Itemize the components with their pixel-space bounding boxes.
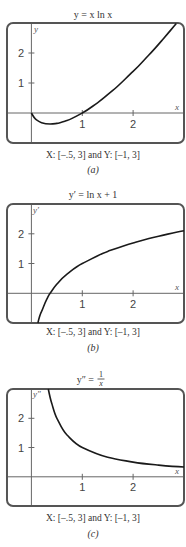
panel-b-title: y′ = ln x + 1	[69, 189, 118, 200]
panel-b-y-axis-label: y′	[32, 205, 40, 215]
panel-a-label: (a)	[87, 164, 99, 176]
panel-a-y-axis-label: y	[33, 24, 38, 34]
panel-a-title: y = x ln x	[74, 9, 112, 20]
panel-a-x-axis-label: x	[174, 102, 179, 112]
panel-b-ytick-label-2: 2	[18, 228, 24, 240]
panel-b: y′ = ln x + 1 1 2 1 2 y′ x X: [–.5, 3] a…	[7, 189, 184, 354]
panel-c: y″ = 1 x 1 2 1 2 y″ x X: [–.5, 3] and Y:…	[7, 370, 184, 540]
panel-b-curve	[38, 231, 184, 323]
panel-c-window-caption: X: [–.5, 3] and Y: [–1, 3]	[46, 513, 140, 523]
panel-a-ytick-label-1: 1	[18, 77, 24, 89]
panel-c-ytick-label-1: 1	[18, 442, 24, 454]
panel-b-x-axis-label: x	[174, 282, 179, 292]
panel-b-ytick-label-1: 1	[18, 258, 24, 270]
panel-c-y-axis-label: y″	[32, 389, 41, 399]
panel-c-title-denominator: x	[98, 379, 103, 388]
panel-a-curve	[31, 24, 176, 125]
panel-c-x-axis-label: x	[174, 466, 179, 476]
panel-a: y = x ln x 1 2 1 2 y x X: [–.5, 3] and Y…	[7, 9, 184, 176]
panel-a-xtick-label-2: 2	[130, 118, 136, 130]
panel-c-xtick-label-2: 2	[130, 481, 136, 493]
panel-b-label: (b)	[87, 342, 99, 354]
panel-c-curve	[48, 389, 184, 467]
panel-c-title-prefix: y″ =	[77, 374, 95, 385]
panel-b-window-caption: X: [–.5, 3] and Y: [–1, 3]	[46, 327, 140, 337]
panel-a-ytick-label-2: 2	[18, 47, 24, 59]
panel-c-label: (c)	[87, 528, 99, 540]
figure: y = x ln x 1 2 1 2 y x X: [–.5, 3] and Y…	[0, 0, 186, 547]
panel-c-xtick-label-1: 1	[79, 481, 85, 493]
panel-c-title-numerator: 1	[99, 370, 103, 379]
panel-a-xtick-label-1: 1	[79, 118, 85, 130]
panel-c-ytick-label-2: 2	[18, 412, 24, 424]
panel-c-title: y″ = 1 x	[77, 370, 105, 388]
panel-b-xtick-label-2: 2	[130, 298, 136, 310]
panel-a-window-caption: X: [–.5, 3] and Y: [–1, 3]	[46, 150, 140, 160]
panel-b-xtick-label-1: 1	[79, 298, 85, 310]
